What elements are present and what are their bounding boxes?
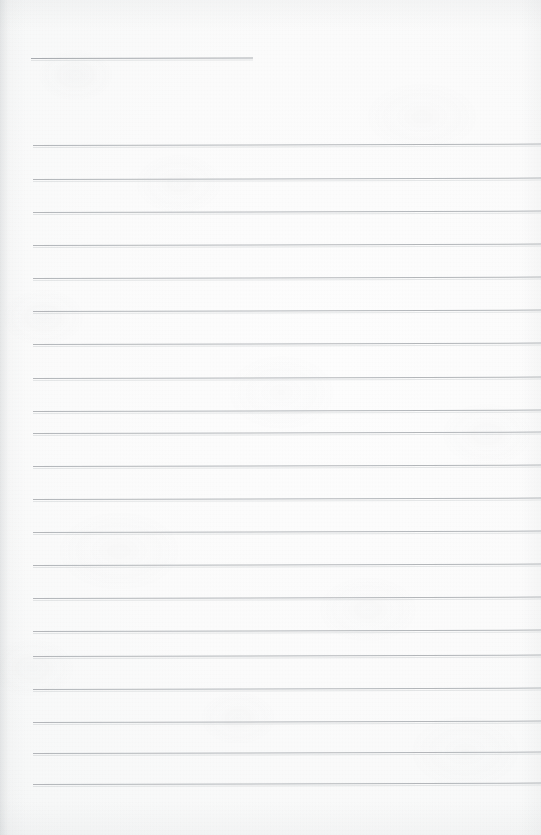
header-rule xyxy=(31,57,253,59)
ruled-line xyxy=(33,310,541,312)
ruled-line xyxy=(33,377,541,379)
ruled-line xyxy=(33,597,541,599)
ruled-line xyxy=(33,752,541,754)
ruled-line xyxy=(33,178,541,180)
ruled-line xyxy=(33,783,541,785)
ruled-line xyxy=(33,343,541,345)
scanned-notebook-page xyxy=(0,0,541,835)
ruled-line xyxy=(33,144,541,146)
ruled-line xyxy=(33,244,541,246)
ruled-line xyxy=(33,465,541,467)
ruled-line xyxy=(33,277,541,279)
ruled-line xyxy=(33,410,541,412)
ruled-lines-layer xyxy=(0,0,541,835)
ruled-line xyxy=(33,630,541,632)
ruled-line xyxy=(33,688,541,690)
ruled-line xyxy=(33,721,541,723)
ruled-line xyxy=(33,655,541,657)
ruled-line xyxy=(33,531,541,533)
ruled-line xyxy=(33,211,541,213)
ruled-line xyxy=(33,564,541,566)
ruled-line xyxy=(33,432,541,434)
ruled-line xyxy=(33,498,541,500)
